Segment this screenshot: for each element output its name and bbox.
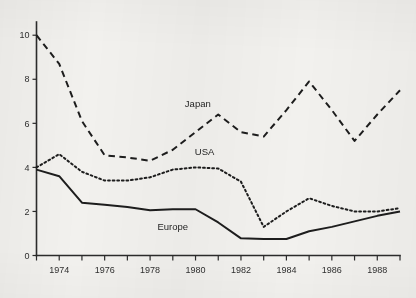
series-annotations: JapanUSAEurope xyxy=(157,98,215,232)
chart-figure: 0246810 19741976197819801982198419861988… xyxy=(0,0,416,298)
x-tick-label: 1976 xyxy=(95,265,115,275)
y-tick-label: 10 xyxy=(19,30,29,40)
y-tick-label: 0 xyxy=(24,251,29,261)
x-tick-label: 1974 xyxy=(49,265,69,275)
y-axis: 0246810 xyxy=(19,22,36,261)
y-tick-label: 4 xyxy=(24,163,29,173)
x-tick-label: 1984 xyxy=(276,265,296,275)
line-chart: 0246810 19741976197819801982198419861988… xyxy=(0,0,416,298)
x-tick-label: 1982 xyxy=(231,265,251,275)
x-tick-label: 1980 xyxy=(186,265,206,275)
x-axis: 19741976197819801982198419861988 xyxy=(37,256,401,275)
series-line-usa xyxy=(37,154,401,227)
x-axis-tick-labels: 19741976197819801982198419861988 xyxy=(49,265,387,275)
data-series-group xyxy=(37,35,401,239)
series-line-japan xyxy=(37,35,401,161)
y-tick-label: 6 xyxy=(24,119,29,129)
y-tick-label: 2 xyxy=(24,207,29,217)
y-axis-tick-labels: 0246810 xyxy=(19,30,29,260)
x-tick-label: 1988 xyxy=(367,265,387,275)
x-tick-label: 1978 xyxy=(140,265,160,275)
series-label-japan: Japan xyxy=(185,98,211,109)
y-tick-label: 8 xyxy=(24,74,29,84)
series-label-usa: USA xyxy=(195,146,215,157)
series-label-europe: Europe xyxy=(157,221,188,232)
series-line-europe xyxy=(37,170,401,239)
x-tick-label: 1986 xyxy=(322,265,342,275)
